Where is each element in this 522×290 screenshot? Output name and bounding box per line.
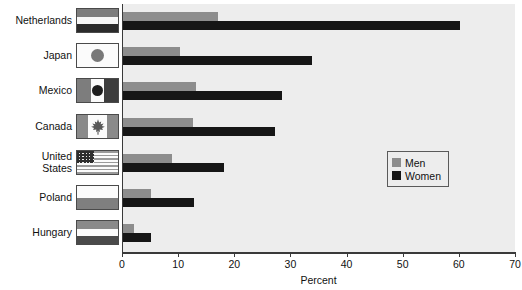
flag-united-states-icon xyxy=(76,150,119,175)
category-row: Poland xyxy=(0,181,122,214)
x-tick-label: 70 xyxy=(509,258,521,270)
legend-item-men: Men xyxy=(392,156,441,169)
x-tick-label: 50 xyxy=(397,258,409,270)
x-axis-title: Percent xyxy=(122,274,515,286)
bar-men xyxy=(123,189,151,198)
bar-women xyxy=(123,127,275,136)
x-tick xyxy=(290,252,291,257)
category-label-poland: Poland xyxy=(39,192,76,204)
grouped-bar-chart: NetherlandsJapanMexicoCanadaUnited State… xyxy=(0,0,522,290)
category-row: United States xyxy=(0,146,122,179)
x-tick xyxy=(403,252,404,257)
bar-women xyxy=(123,21,460,30)
x-tick-label: 30 xyxy=(285,258,297,270)
x-axis-line xyxy=(122,252,515,254)
legend-label-women: Women xyxy=(405,170,441,182)
legend-label-men: Men xyxy=(405,157,425,169)
x-tick xyxy=(515,252,516,257)
category-label-japan: Japan xyxy=(43,50,76,62)
x-tick xyxy=(459,252,460,257)
x-tick-label: 10 xyxy=(172,258,184,270)
us-flag-canton xyxy=(77,151,94,163)
category-row: Netherlands xyxy=(0,4,122,37)
bar-women xyxy=(123,163,224,172)
x-tick-label: 20 xyxy=(228,258,240,270)
bar-men xyxy=(123,118,193,127)
bar-men xyxy=(123,47,180,56)
legend-swatch-men xyxy=(392,158,401,167)
flag-canada-icon xyxy=(76,114,119,139)
x-tick-label: 40 xyxy=(341,258,353,270)
bar-women xyxy=(123,198,194,207)
bar-men xyxy=(123,224,134,233)
x-tick-label: 60 xyxy=(453,258,465,270)
legend-item-women: Women xyxy=(392,169,441,182)
legend-swatch-women xyxy=(392,171,401,180)
x-tick xyxy=(234,252,235,257)
plot-area xyxy=(122,4,515,252)
category-label-canada: Canada xyxy=(35,121,76,133)
flag-mexico-icon xyxy=(76,78,119,103)
category-label-united-states: United States xyxy=(42,151,76,174)
bar-women xyxy=(123,233,151,242)
canada-maple-leaf xyxy=(91,119,105,135)
flag-hungary-icon xyxy=(76,220,119,245)
x-tick-label: 0 xyxy=(119,258,125,270)
category-label-hungary: Hungary xyxy=(32,227,76,239)
bar-women xyxy=(123,91,282,100)
category-row: Canada xyxy=(0,110,122,143)
bar-men xyxy=(123,154,172,163)
x-tick xyxy=(347,252,348,257)
legend: Men Women xyxy=(387,151,449,187)
bar-men xyxy=(123,12,218,21)
japan-sun-disc xyxy=(91,49,104,62)
flag-japan-icon xyxy=(76,43,119,68)
bar-women xyxy=(123,56,312,65)
x-tick xyxy=(122,252,123,257)
category-row: Japan xyxy=(0,39,122,72)
flag-netherlands-icon xyxy=(76,8,119,33)
category-row: Mexico xyxy=(0,74,122,107)
mexico-emblem xyxy=(92,85,103,96)
flag-poland-icon xyxy=(76,185,119,210)
x-tick xyxy=(178,252,179,257)
category-label-netherlands: Netherlands xyxy=(15,15,76,27)
bar-men xyxy=(123,82,196,91)
category-row: Hungary xyxy=(0,216,122,249)
category-axis: NetherlandsJapanMexicoCanadaUnited State… xyxy=(0,0,122,252)
category-label-mexico: Mexico xyxy=(39,85,76,97)
